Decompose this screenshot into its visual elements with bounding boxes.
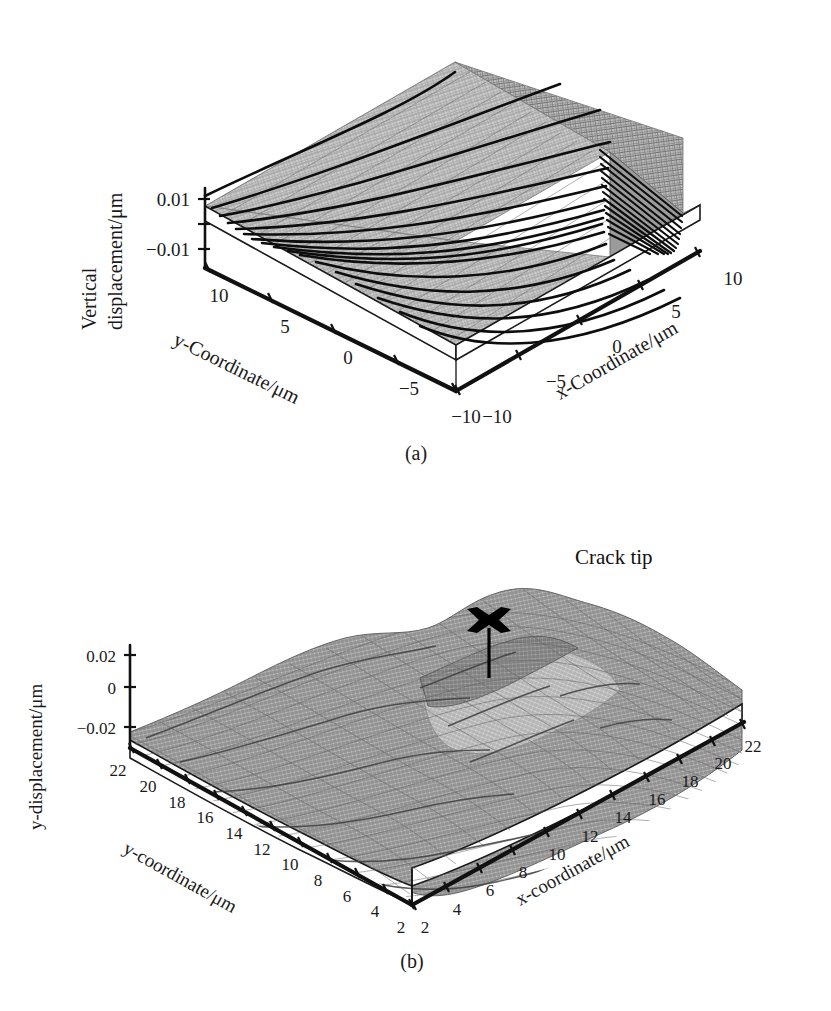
ytick-label-b-4: 14 [226, 824, 244, 843]
xtick-label-b-10: 22 [745, 737, 762, 756]
xtick-label-a-4: 10 [724, 268, 743, 289]
ytick-label-a-2: 0 [343, 347, 353, 368]
ytick-label-b-1: 20 [140, 777, 157, 796]
ytick-label-b-2: 18 [169, 793, 186, 812]
panel-b: Crack tip 0.02 0 −0.02 y-displacement/μ [0, 500, 831, 1011]
ytick-label-b-3: 16 [197, 808, 214, 827]
ytick-label-b-5: 12 [254, 840, 271, 859]
panel-a: 0.01 −0.01 Vertical displacement/μm 10 5… [0, 0, 831, 500]
figure-root: 0.01 −0.01 Vertical displacement/μm 10 5… [0, 0, 831, 1011]
zticks-a: 0.01 −0.01 [146, 189, 210, 260]
xtick-label-a-0: −10 [482, 406, 512, 427]
surface-b [130, 589, 742, 904]
panel-b-plot: Crack tip 0.02 0 −0.02 y-displacement/μ [0, 500, 831, 1011]
ytick-label-b-9: 4 [371, 902, 380, 921]
xtitle-a: x-Coordinate/μm [551, 316, 682, 404]
ytitle-b-text: y-coordinate/μm [120, 837, 241, 917]
xtick-label-b-0: 2 [421, 918, 430, 937]
xtick-label-b-4: 10 [549, 845, 566, 864]
ztick-label-b-2: −0.02 [77, 719, 116, 738]
ytick-label-a-1: 5 [280, 316, 290, 337]
xtick-label-b-1: 4 [453, 900, 462, 919]
xtick-label-b-8: 18 [682, 772, 699, 791]
xtick-label-a-3: 5 [671, 301, 681, 322]
ytick-label-b-8: 6 [343, 887, 352, 906]
ztitle-a-line2: displacement/μm [104, 192, 127, 330]
ztitle-a-line1: Vertical [78, 267, 100, 330]
ytick-label-a-4: −10 [451, 406, 481, 427]
ztitle-b: y-displacement/μm [25, 683, 46, 830]
crack-tip-label: Crack tip [575, 545, 653, 569]
xtick-label-b-6: 14 [615, 808, 633, 827]
zticks-b: 0.02 0 −0.02 [77, 647, 136, 738]
ytick-label-a-3: −5 [399, 378, 419, 399]
xtick-label-b-9: 20 [715, 754, 732, 773]
ytick-label-b-6: 10 [282, 855, 299, 874]
ztick-label-a-2: −0.01 [146, 239, 190, 260]
ytitle-a-text: y-Coordinate/μm [170, 328, 304, 409]
xtick-label-b-3: 8 [519, 863, 528, 882]
xtick-label-b-7: 16 [649, 790, 666, 809]
ztick-label-a-0: 0.01 [157, 189, 190, 210]
ytitle-b: y-coordinate/μm [120, 837, 241, 917]
ztitle-b-text: y-displacement/μm [25, 683, 46, 830]
caption-b: (b) [400, 950, 423, 973]
ytick-label-a-0: 10 [210, 285, 229, 306]
xtick-label-b-2: 6 [486, 881, 495, 900]
panel-a-plot: 0.01 −0.01 Vertical displacement/μm 10 5… [0, 0, 831, 500]
ytitle-a: y-Coordinate/μm [170, 328, 304, 409]
ytick-label-b-10: 2 [397, 918, 406, 937]
xtick-label-b-5: 12 [582, 827, 599, 846]
ztick-label-b-0: 0.02 [86, 647, 116, 666]
xtitle-a-text: x-Coordinate/μm [551, 316, 682, 404]
caption-a: (a) [405, 442, 427, 465]
ztick-label-b-1: 0 [108, 679, 117, 698]
surface-b-body [130, 589, 742, 896]
ytick-label-b-7: 8 [314, 871, 323, 890]
ytick-label-b-0: 22 [110, 761, 127, 780]
ztitle-a: Vertical displacement/μm [78, 192, 127, 330]
